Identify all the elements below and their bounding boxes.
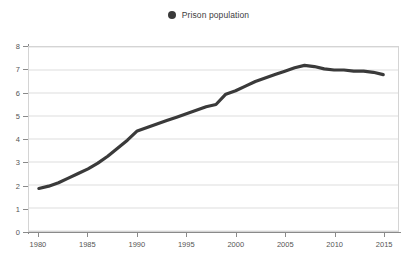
y-tick-label: 6 — [0, 88, 20, 97]
data-line — [39, 65, 383, 188]
x-tick-mark — [186, 232, 187, 237]
x-tick-label: 1990 — [128, 240, 145, 249]
legend-marker-icon — [168, 11, 176, 19]
x-tick-mark — [285, 232, 286, 237]
x-axis-line — [26, 232, 401, 233]
legend-label: Prison population — [182, 10, 249, 20]
chart-screenshot: Prison population 012345678 198019851990… — [0, 0, 417, 265]
y-tick-label: 2 — [0, 181, 20, 190]
y-tick-label: 7 — [0, 65, 20, 74]
series-line-prison-population — [29, 47, 398, 231]
y-tick-label: 3 — [0, 158, 20, 167]
legend-item-prison-population[interactable]: Prison population — [168, 10, 249, 20]
y-tick-label: 1 — [0, 204, 20, 213]
x-tick-mark — [236, 232, 237, 237]
y-tick-mark — [23, 232, 28, 233]
x-tick-label: 2015 — [376, 240, 393, 249]
y-tick-label: 5 — [0, 111, 20, 120]
y-tick-label: 4 — [0, 135, 20, 144]
x-tick-label: 1985 — [79, 240, 96, 249]
x-tick-label: 2000 — [227, 240, 244, 249]
x-tick-mark — [335, 232, 336, 237]
plot-area — [28, 46, 399, 232]
x-tick-mark — [38, 232, 39, 237]
y-tick-label: 8 — [0, 42, 20, 51]
chart-legend: Prison population — [0, 10, 417, 20]
x-tick-label: 1995 — [178, 240, 195, 249]
x-tick-mark — [87, 232, 88, 237]
x-tick-mark — [384, 232, 385, 237]
x-tick-label: 2010 — [326, 240, 343, 249]
x-tick-mark — [137, 232, 138, 237]
x-tick-label: 1980 — [30, 240, 47, 249]
y-tick-label: 0 — [0, 228, 20, 237]
x-tick-label: 2005 — [277, 240, 294, 249]
